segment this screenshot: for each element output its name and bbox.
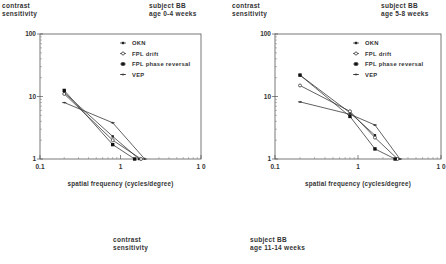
chart1-legend: OKNFPL driftFPL phase reversalVEP	[120, 40, 191, 77]
legend-item: FPL phase reversal	[132, 61, 191, 67]
chart2-ytick: 1	[267, 155, 271, 162]
legend-item: FPL drift	[132, 51, 158, 57]
chart2-series-fpl-drift	[298, 84, 399, 161]
chart1-plot: 1001010.111 0spatial frequency (cycles/d…	[25, 30, 206, 188]
chart2-xtick: 0.1	[270, 163, 279, 170]
chart1-ytick: 1	[32, 155, 36, 162]
chart1-series-vep	[62, 102, 147, 160]
chart1-ytick: 10	[29, 93, 37, 100]
legend-item: OKN	[365, 40, 379, 46]
chart2-legend: OKNFPL driftFPL phase reversalVEP	[353, 40, 424, 77]
chart2-series-fpl-phase-reversal	[298, 73, 397, 160]
chart1-xtick: 1 0	[196, 163, 205, 170]
legend-item: OKN	[132, 40, 146, 46]
chart2-ytick: 100	[260, 30, 271, 37]
chart2-xlabel: spatial frequency (cycles/degree)	[305, 180, 411, 188]
chart2-frame	[275, 34, 441, 159]
chart2-xtick: 1 0	[436, 163, 445, 170]
charts-canvas: 1001010.111 0spatial frequency (cycles/d…	[0, 0, 446, 264]
chart2-plot: 1001010.111 0spatial frequency (cycles/d…	[260, 30, 446, 188]
chart2-ytick: 10	[264, 93, 272, 100]
legend-item: VEP	[365, 72, 378, 78]
legend-item: FPL drift	[365, 51, 391, 57]
chart1-ytick: 100	[25, 30, 36, 37]
legend-item: FPL phase reversal	[365, 61, 424, 67]
chart1-xtick: 1	[119, 163, 123, 170]
chart1-xtick: 0.1	[35, 163, 44, 170]
chart1-xlabel: spatial frequency (cycles/degree)	[68, 180, 174, 188]
legend-item: VEP	[132, 72, 145, 78]
chart1-frame	[40, 34, 201, 159]
chart2-xtick: 1	[356, 163, 360, 170]
